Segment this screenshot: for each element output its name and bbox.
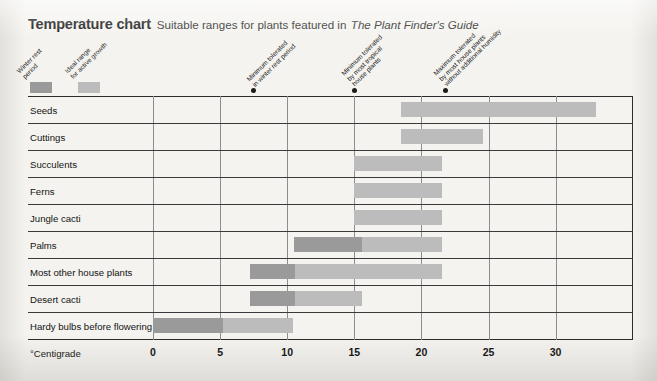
bar-ferns-ideal-range-for-active-growth: [354, 183, 441, 198]
bar-desert-cacti-ideal-range-for-active-growth: [295, 291, 362, 306]
row-separator: [28, 258, 633, 259]
gridline-30: [556, 96, 557, 340]
tick-label-15: 15: [348, 346, 360, 358]
bar-most-other-house-plants-winter-rest-period: [250, 264, 296, 279]
title-subtitle: Suitable ranges for plants featured in: [157, 18, 347, 31]
tick-label-5: 5: [217, 346, 223, 358]
callout-dot-max-no-humidity: [443, 88, 448, 93]
title-main: Temperature chart: [28, 16, 151, 32]
row-separator: [28, 123, 633, 124]
bar-hardy-bulbs-before-flowering-winter-rest-period: [153, 318, 223, 333]
tick-label-25: 25: [483, 346, 495, 358]
row-label-jungle-cacti: Jungle cacti: [30, 213, 81, 224]
row-label-desert-cacti: Desert cacti: [30, 294, 81, 305]
legend-swatch-winter-rest: [30, 82, 52, 93]
row-label-succulents: Succulents: [30, 159, 77, 170]
row-separator: [28, 312, 633, 313]
row-separator: [28, 150, 633, 151]
callout-min-winter-rest: Minimum toleratedin winter rest period: [245, 37, 296, 88]
row-label-palms: Palms: [30, 240, 57, 251]
callout-dot-min-tropical-house-plants: [352, 88, 357, 93]
bar-seeds-ideal-range-for-active-growth: [401, 102, 596, 117]
callout-dot-min-winter-rest: [251, 88, 256, 93]
row-separator: [28, 177, 633, 178]
bar-desert-cacti-winter-rest-period: [250, 291, 296, 306]
tick-label-20: 20: [416, 346, 428, 358]
legend-label-winter-rest: Winter restperiod: [15, 47, 48, 80]
row-label-seeds: Seeds: [30, 105, 57, 116]
row-separator: [28, 285, 633, 286]
tick-label-10: 10: [281, 346, 293, 358]
bar-most-other-house-plants-ideal-range-for-active-growth: [295, 264, 441, 279]
page-title: Temperature chartSuitable ranges for pla…: [28, 15, 479, 33]
bar-jungle-cacti-ideal-range-for-active-growth: [354, 210, 441, 225]
row-label-cuttings: Cuttings: [30, 132, 65, 143]
plot-area: [153, 96, 633, 340]
chart-page: Temperature chartSuitable ranges for pla…: [0, 0, 657, 381]
row-separator: [28, 231, 633, 232]
bar-cuttings-ideal-range-for-active-growth: [401, 129, 483, 144]
bar-palms-ideal-range-for-active-growth: [362, 237, 441, 252]
legend-label-ideal-range: Ideal rangefor active growth: [63, 35, 108, 80]
callout-min-tropical-house-plants: Minimum toleratedby most tropicalhouse p…: [340, 34, 394, 88]
row-label-hardy-bulbs-before-flowering: Hardy bulbs before flowering: [30, 321, 152, 332]
gridline-25: [489, 96, 490, 340]
chart-body: SeedsCuttingsSucculentsFernsJungle cacti…: [28, 96, 633, 340]
legend: Winter restperiodIdeal rangefor active g…: [26, 44, 156, 96]
bar-hardy-bulbs-before-flowering-ideal-range-for-active-growth: [223, 318, 293, 333]
axis-title: °Centigrade: [30, 348, 81, 359]
bar-palms-winter-rest-period: [294, 237, 362, 252]
tick-label-0: 0: [150, 346, 156, 358]
x-axis: °Centigrade 051015202530: [28, 340, 633, 370]
legend-swatch-ideal-range: [78, 82, 100, 93]
row-separator: [28, 204, 633, 205]
title-subtitle-book: The Plant Finder's Guide: [351, 18, 479, 31]
row-label-most-other-house-plants: Most other house plants: [30, 267, 132, 278]
plot-right-edge: [632, 96, 633, 340]
gridline-5: [220, 96, 221, 340]
row-label-ferns: Ferns: [30, 186, 55, 197]
tick-label-30: 30: [550, 346, 562, 358]
bar-succulents-ideal-range-for-active-growth: [354, 156, 441, 171]
gridline-0: [153, 96, 154, 340]
